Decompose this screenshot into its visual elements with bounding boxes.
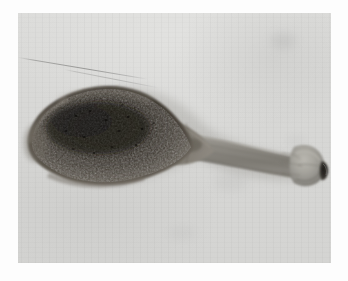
screenshot-root (0, 0, 348, 281)
photograph-plate (18, 13, 331, 263)
specimen (18, 13, 331, 263)
specimen-illustration (18, 13, 331, 263)
oral-opening (320, 161, 329, 180)
